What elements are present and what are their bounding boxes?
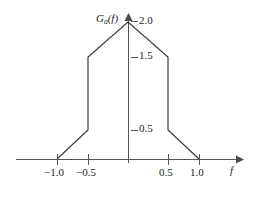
- spectral-density-figure: Ga(f) 2.0 1.5 0.5 −1.0 −0.5 0.5 1.0 f: [0, 0, 260, 199]
- y-tick-label-0-5: 0.5: [139, 123, 153, 134]
- y-axis-label-main: G: [96, 12, 104, 24]
- y-tick-label-1-5: 1.5: [139, 50, 153, 61]
- plot-canvas: [0, 0, 260, 199]
- x-axis-arrowhead: [236, 156, 244, 164]
- y-axis-label: Ga(f): [96, 13, 118, 25]
- x-axis-label: f: [230, 165, 233, 176]
- y-axis-label-tail: (f): [108, 12, 118, 24]
- x-tick-label-minus-1-0: −1.0: [44, 167, 64, 178]
- x-axis: [16, 156, 244, 164]
- x-tick-label-plus-0-5: 0.5: [159, 167, 173, 178]
- x-tick-label-plus-1-0: 1.0: [190, 167, 204, 178]
- y-tick-marks: [131, 22, 138, 131]
- y-axis: [125, 13, 133, 163]
- x-tick-label-minus-0-5: −0.5: [76, 167, 96, 178]
- y-tick-label-2-0: 2.0: [139, 15, 153, 26]
- y-axis-arrowhead: [125, 13, 133, 21]
